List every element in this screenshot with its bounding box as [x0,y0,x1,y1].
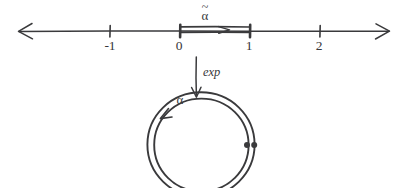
alpha-tilde-segment-group: α ~ [180,0,250,37]
alpha-loop-group: α [147,92,257,188]
loop-inner-circle [154,99,248,188]
number-line-group: -1 0 1 2 [19,24,390,54]
tick-label-0: 0 [176,38,183,53]
exp-map-arrow-group: exp [192,57,221,97]
inner-basepoint-dot [244,142,250,148]
alpha-loop-label: α [177,92,184,107]
tick-label-2: 2 [316,38,323,53]
exponential-map-diagram: Exponential map from unit interval to ci… [0,0,406,188]
figure-root: Exponential map from unit interval to ci… [0,0,406,188]
outer-basepoint-dot [251,142,257,148]
exp-label: exp [203,65,220,79]
alpha-tilde-accent: ~ [202,0,209,14]
tick-label-minus-1: -1 [104,38,115,53]
tick-label-1: 1 [246,38,253,53]
